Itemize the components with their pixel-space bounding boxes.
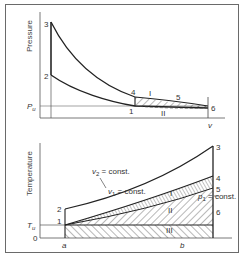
v2-leader-line [100,178,106,188]
point-2-upper: 2 [44,72,49,81]
temperature-axis-label: Temperature [25,151,34,196]
point-3-upper: 3 [44,20,49,29]
pressure-volume-panel: Pressure 3 2 4 1 5 6 I II v Pu [25,12,225,130]
origin-label: 0 [33,234,38,243]
point-6-lower: 6 [216,208,221,217]
point-3-lower: 3 [216,143,221,152]
ambient-pressure-label: Pu [27,102,36,112]
expansion-curve-3-4 [51,22,135,97]
temperature-panel: Temperature 3 4 5 6 2 1 0 Tu a b I II I [25,143,236,250]
point-2-lower: 2 [57,205,62,214]
point-4-lower: 4 [216,174,221,183]
point-4-upper: 4 [131,88,136,97]
v1-const-label: v1 = const. [108,187,146,197]
pressure-axis-label: Pressure [25,19,34,52]
ambient-temperature-label: Tu [27,221,36,231]
point-1-upper: 1 [129,107,134,116]
volume-axis-label: v [208,121,213,130]
region-II-label: II [168,206,172,215]
point-6-upper: 6 [211,104,216,113]
v2-const-label: v2 = const. [92,167,130,177]
entropy-a-label: a [62,241,67,250]
entropy-b-label: b [180,241,185,250]
region-I-label: I [170,189,172,198]
thermo-diagram: Pressure 3 2 4 1 5 6 I II v Pu Temperatu… [0,0,245,259]
region-III-label: III [166,226,173,235]
point-5-upper: 5 [176,93,181,102]
point-1-lower: 1 [57,217,62,226]
region-III-hatch [65,225,213,238]
region-II-label-upper: II [161,109,165,118]
region-I-label-upper: I [149,89,151,98]
